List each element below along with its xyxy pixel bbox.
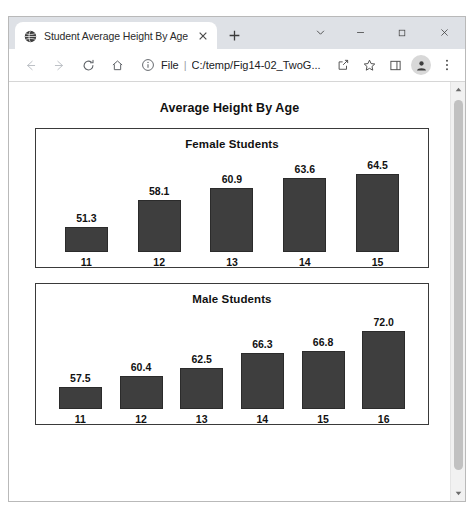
reload-button-icon[interactable]	[75, 52, 101, 78]
url-scheme-label: File	[161, 59, 179, 71]
bar-value-label: 72.0	[373, 317, 393, 328]
close-button[interactable]	[423, 17, 465, 48]
bar-plot-female: 51.31158.11260.91363.61464.515	[36, 157, 428, 267]
browser-toolbar: File | C:/temp/Fig14-02_TwoG...	[9, 49, 465, 82]
bar-category-label: 11	[81, 257, 92, 268]
bar-column: 62.513	[171, 312, 232, 424]
bar-column: 72.016	[353, 312, 414, 424]
bar	[180, 368, 223, 409]
bar-value-label: 66.8	[313, 337, 333, 348]
bar-value-label: 57.5	[70, 373, 90, 384]
browser-tab[interactable]: Student Average Height By Age	[15, 22, 217, 49]
window-controls	[301, 17, 465, 48]
bar-category-label: 15	[372, 257, 384, 268]
bar-column: 63.614	[268, 157, 341, 267]
bar-value-label: 66.3	[252, 339, 272, 350]
scroll-down-arrow-icon[interactable]	[451, 486, 465, 501]
screenshot-stage: Student Average Height By Age	[0, 0, 474, 516]
bar-column: 66.815	[293, 312, 354, 424]
chart-title-male: Male Students	[36, 284, 428, 305]
site-info-icon[interactable]	[141, 58, 156, 73]
url-text: C:/temp/Fig14-02_TwoG...	[192, 59, 321, 71]
bar-category-label: 12	[135, 414, 147, 425]
avatar	[411, 55, 431, 75]
home-button-icon[interactable]	[104, 52, 130, 78]
maximize-button[interactable]	[381, 17, 423, 48]
back-button-icon[interactable]	[17, 52, 43, 78]
bar	[120, 376, 163, 409]
bar-column: 66.314	[232, 312, 293, 424]
bar-value-label: 63.6	[295, 164, 315, 175]
three-dot-menu-icon[interactable]	[435, 53, 459, 77]
browser-window: Student Average Height By Age	[8, 16, 466, 502]
bar	[59, 387, 102, 409]
bar	[138, 200, 181, 252]
bar-category-label: 11	[75, 414, 86, 425]
star-icon[interactable]	[357, 53, 381, 77]
bar	[210, 188, 253, 252]
bar-column: 57.511	[50, 312, 111, 424]
bar-category-label: 14	[257, 414, 269, 425]
bar-category-label: 16	[378, 414, 390, 425]
tab-strip: Student Average Height By Age	[9, 17, 465, 49]
bar-column: 60.412	[111, 312, 172, 424]
bar-category-label: 14	[299, 257, 311, 268]
tab-search-chevron-down-icon[interactable]	[301, 17, 339, 48]
globe-icon	[24, 29, 37, 42]
minimize-button[interactable]	[339, 17, 381, 48]
share-icon[interactable]	[331, 53, 355, 77]
bar-plot-male: 57.51160.41262.51366.31466.81572.016	[36, 312, 428, 424]
web-page: Average Height By Age Female Students 51…	[9, 82, 450, 501]
page-scrollbar[interactable]	[450, 82, 465, 501]
bar-category-label: 12	[153, 257, 165, 268]
bar-category-label: 13	[196, 414, 208, 425]
bar-value-label: 64.5	[367, 160, 387, 171]
bar-column: 60.913	[196, 157, 269, 267]
bar	[241, 353, 284, 409]
tab-title: Student Average Height By Age	[44, 30, 188, 42]
bar	[302, 351, 345, 409]
bar-category-label: 15	[317, 414, 329, 425]
address-bar[interactable]: File | C:/temp/Fig14-02_TwoG...	[141, 53, 325, 77]
side-panel-icon[interactable]	[383, 53, 407, 77]
bar-value-label: 58.1	[149, 186, 169, 197]
bar-value-label: 62.5	[191, 354, 211, 365]
bar-column: 51.311	[50, 157, 123, 267]
bar-category-label: 13	[226, 257, 238, 268]
bar	[356, 174, 399, 252]
forward-button-icon[interactable]	[46, 52, 72, 78]
scrollbar-thumb[interactable]	[454, 100, 463, 470]
scroll-up-arrow-icon[interactable]	[451, 82, 465, 97]
chart-panel-female: Female Students 51.31158.11260.91363.614…	[35, 128, 429, 268]
bar-value-label: 51.3	[76, 213, 96, 224]
tab-close-icon[interactable]	[196, 29, 210, 43]
chart-panel-male: Male Students 57.51160.41262.51366.31466…	[35, 283, 429, 425]
bar	[362, 331, 405, 409]
url-divider: |	[184, 59, 187, 71]
bar	[283, 178, 326, 252]
profile-avatar-icon[interactable]	[409, 53, 433, 77]
chart-title-female: Female Students	[36, 129, 428, 150]
content-viewport: Average Height By Age Female Students 51…	[9, 82, 465, 501]
new-tab-button[interactable]	[221, 22, 247, 48]
bar-column: 64.515	[341, 157, 414, 267]
page-title: Average Height By Age	[9, 101, 450, 115]
bar-column: 58.112	[123, 157, 196, 267]
bar	[65, 227, 108, 252]
bar-value-label: 60.9	[222, 174, 242, 185]
bar-value-label: 60.4	[131, 362, 151, 373]
